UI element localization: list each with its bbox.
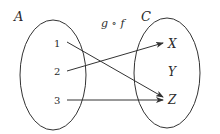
function-label: g ∘ f [101,17,126,30]
element-y: Y [168,65,177,79]
element-x: X [167,37,177,51]
set-c-label: C [141,9,151,24]
set-c-ellipse [134,18,200,128]
mapping-diagram: A C g ∘ f 1 2 3 X Y Z [0,0,220,134]
element-2: 2 [54,66,60,77]
element-3: 3 [54,95,60,106]
set-a-label: A [13,9,23,24]
element-1: 1 [54,38,60,49]
arrow-1-to-z [67,42,163,97]
element-z: Z [167,93,177,107]
set-a-ellipse [20,20,86,130]
